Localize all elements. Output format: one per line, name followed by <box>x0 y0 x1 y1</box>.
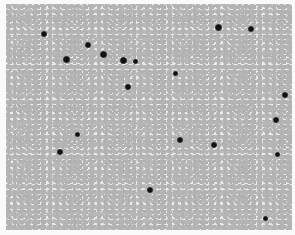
nucleated-cell <box>100 51 107 58</box>
microscopy-image <box>0 0 295 235</box>
blood-smear-field <box>6 4 292 230</box>
nucleated-cell <box>120 57 127 64</box>
nucleated-cell <box>211 142 217 148</box>
nucleated-cell <box>177 137 183 143</box>
nucleated-cell <box>125 84 131 90</box>
nucleated-cell <box>85 42 91 48</box>
nucleated-cell <box>282 92 288 98</box>
nucleated-cell <box>63 56 70 63</box>
nucleated-cell <box>275 152 280 157</box>
nucleated-cell <box>75 132 80 137</box>
nucleated-cell <box>263 216 268 221</box>
nucleated-cell <box>57 149 63 155</box>
nucleated-cell <box>248 26 254 32</box>
nucleated-cell <box>41 31 47 37</box>
nucleated-cell <box>133 59 138 64</box>
nucleated-cell <box>215 24 222 31</box>
nucleated-cell <box>147 187 153 193</box>
nucleated-cell <box>173 71 178 76</box>
nucleated-cell <box>273 117 279 123</box>
